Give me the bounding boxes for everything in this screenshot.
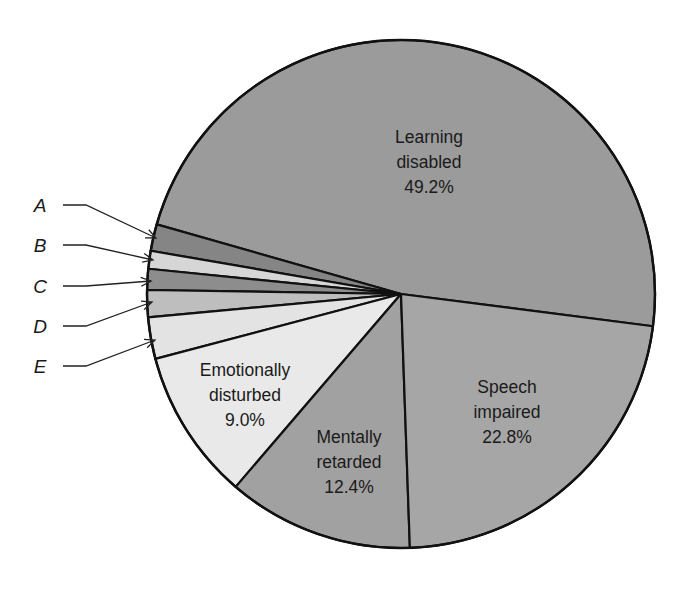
callout-letter-e: E (34, 356, 47, 377)
label-learning-disabled: Learning disabled 49.2% (395, 127, 463, 197)
label-learning-line1: Learning (395, 127, 463, 147)
label-mental-line2: retarded (316, 452, 381, 472)
callout-d: D (33, 301, 152, 337)
arrow-icon (63, 205, 156, 238)
callout-a: A (33, 195, 156, 238)
callout-group: A B C D E (33, 195, 156, 377)
pie-chart: Learning disabled 49.2% Speech impaired … (0, 0, 682, 589)
label-emotional-value: 9.0% (225, 410, 265, 430)
arrow-icon (63, 301, 152, 326)
label-mental-line1: Mentally (316, 427, 381, 447)
label-speech-line2: impaired (473, 402, 540, 422)
arrow-icon (63, 245, 153, 262)
callout-b: B (34, 235, 153, 262)
label-emotional-line1: Emotionally (200, 360, 291, 380)
callout-letter-a: A (33, 195, 47, 216)
pie-slices (147, 40, 655, 548)
label-speech-value: 22.8% (482, 427, 532, 447)
label-mental-value: 12.4% (324, 477, 374, 497)
callout-letter-b: B (34, 235, 47, 256)
callout-letter-d: D (33, 316, 47, 337)
label-emotional-line2: disturbed (209, 385, 281, 405)
callout-letter-c: C (33, 276, 47, 297)
label-speech-line1: Speech (477, 377, 536, 397)
arrow-icon (63, 339, 155, 366)
callout-c: C (33, 276, 151, 297)
arrow-icon (63, 277, 151, 286)
label-mentally-retarded: Mentally retarded 12.4% (316, 427, 381, 497)
label-speech-impaired: Speech impaired 22.8% (473, 377, 540, 447)
label-learning-line2: disabled (396, 152, 461, 172)
label-learning-value: 49.2% (404, 177, 454, 197)
callout-e: E (34, 339, 155, 377)
